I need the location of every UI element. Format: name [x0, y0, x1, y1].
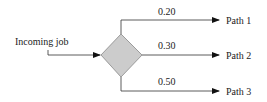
routing-diagram: Incoming job 0.20 Path 1 0.30 Path 2 0.5… [0, 0, 267, 102]
branch-3-probability: 0.50 [158, 76, 176, 87]
decision-diamond [101, 34, 142, 77]
branch-2-probability: 0.30 [158, 40, 176, 51]
branch-3-target: Path 3 [226, 86, 251, 97]
branch-1-arrow [121, 20, 219, 34]
incoming-job-label: Incoming job [15, 36, 69, 47]
branch-1-probability: 0.20 [158, 6, 176, 17]
branch-2-target: Path 2 [226, 50, 251, 61]
incoming-arrow [48, 50, 100, 55]
branch-1-target: Path 1 [226, 15, 251, 26]
